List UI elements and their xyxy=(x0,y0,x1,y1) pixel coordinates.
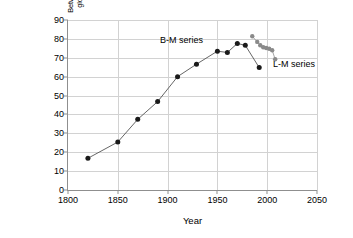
x-axis-title: Year xyxy=(68,215,317,226)
data-point xyxy=(135,117,140,122)
data-point xyxy=(155,99,160,104)
x-tickmark-1850 xyxy=(117,190,118,194)
series-line xyxy=(88,43,259,158)
x-tickmark-2050 xyxy=(317,190,318,194)
data-point xyxy=(243,43,248,48)
data-point xyxy=(215,49,220,54)
data-point xyxy=(225,50,230,55)
x-axis-line xyxy=(67,190,317,191)
gridline-x-2050 xyxy=(317,20,318,190)
x-tick-label-1900: 1900 xyxy=(158,196,178,205)
series-label-lm: L-M series xyxy=(273,60,315,69)
y-tick-label-90: 90 xyxy=(54,16,64,25)
y-tick-label-60: 60 xyxy=(54,72,64,81)
data-point xyxy=(235,41,240,46)
y-tick-label-50: 50 xyxy=(54,91,64,100)
series-label-bm: B-M series xyxy=(160,36,203,45)
x-tick-label-1950: 1950 xyxy=(207,196,227,205)
x-tick-label-1800: 1800 xyxy=(58,196,78,205)
x-tick-label-2050: 2050 xyxy=(307,196,327,205)
series-plot xyxy=(68,20,317,190)
y-tick-label-40: 40 xyxy=(54,110,64,119)
plot-area: 0102030405060708090 18001850190019502000… xyxy=(68,20,317,190)
data-point xyxy=(85,156,90,161)
data-point xyxy=(175,74,180,79)
y-tick-label-70: 70 xyxy=(54,53,64,62)
data-point xyxy=(115,140,120,145)
x-tickmark-2000 xyxy=(267,190,268,194)
data-point xyxy=(250,34,254,38)
y-tick-label-30: 30 xyxy=(54,129,64,138)
data-point xyxy=(255,40,259,44)
data-point xyxy=(257,65,262,70)
data-point xyxy=(270,48,274,52)
x-tick-label-2000: 2000 xyxy=(257,196,277,205)
data-point xyxy=(194,62,199,67)
y-tick-label-80: 80 xyxy=(54,34,64,43)
y-axis-title-line-2: global inequality (in percent) xyxy=(75,0,84,8)
y-axis-title: Between-country component of global ineq… xyxy=(66,0,88,38)
series-bm xyxy=(85,41,261,161)
x-tick-label-1850: 1850 xyxy=(108,196,128,205)
y-tick-label-0: 0 xyxy=(59,186,64,195)
y-axis-title-line-1: Between-country component of xyxy=(66,0,75,13)
series-lm xyxy=(250,34,277,61)
chart-container: 0102030405060708090 18001850190019502000… xyxy=(0,0,353,238)
y-tick-label-10: 10 xyxy=(54,167,64,176)
x-tickmark-1950 xyxy=(217,190,218,194)
x-tickmark-1800 xyxy=(68,190,69,194)
y-tick-label-20: 20 xyxy=(54,148,64,157)
x-tickmark-1900 xyxy=(167,190,168,194)
